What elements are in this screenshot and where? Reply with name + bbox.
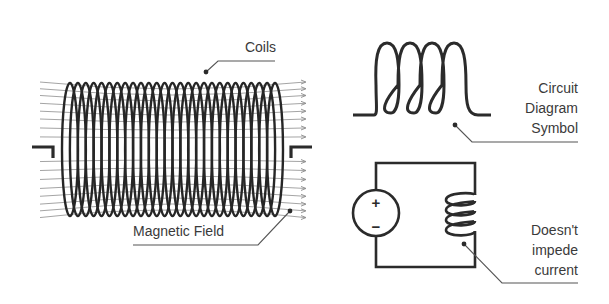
coils-label: Coils (245, 39, 276, 55)
background (0, 0, 609, 304)
minus-sign: − (372, 218, 381, 235)
magnetic-field-pointer-dot-icon (288, 209, 293, 214)
label-line: Diagram (525, 100, 578, 116)
voltage-source-icon: + − (353, 190, 399, 236)
doesnt-impede-label: Doesn't impede current (531, 222, 578, 278)
coils-pointer-dot-icon (204, 70, 209, 75)
label-line: impede (532, 242, 578, 258)
plus-sign: + (372, 194, 381, 211)
inductor-diagram: + − Coils Magnetic Field Circuit Diagram… (0, 0, 609, 304)
label-line: Symbol (531, 120, 578, 136)
label-line: Doesn't (531, 222, 578, 238)
label-line: current (534, 262, 578, 278)
doesnt-impede-pointer-dot-icon (462, 242, 467, 247)
circuit-symbol-pointer-dot-icon (453, 123, 458, 128)
magnetic-field-label: Magnetic Field (133, 223, 224, 239)
label-line: Circuit (538, 80, 578, 96)
